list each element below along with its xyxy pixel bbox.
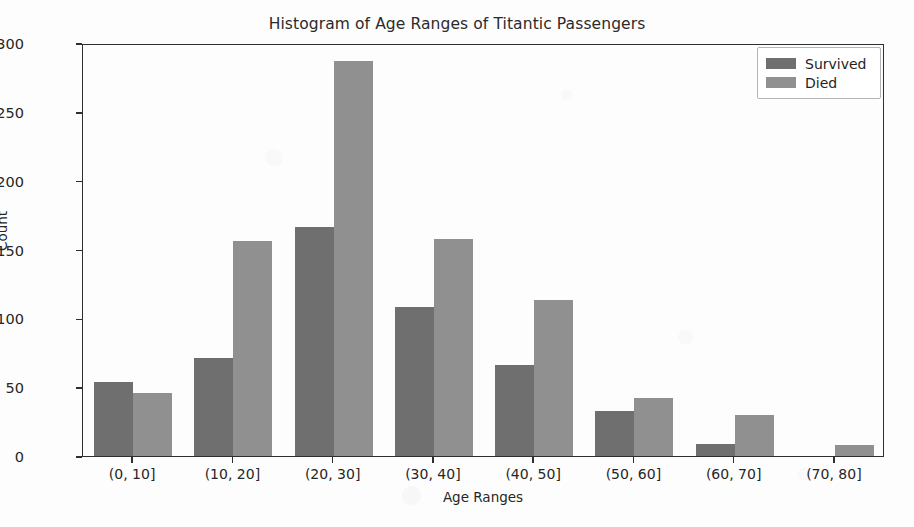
legend-item-died: Died <box>766 73 872 92</box>
y-tick-label-0: 0 <box>0 449 24 465</box>
y-tick-label-300: 300 <box>0 36 24 52</box>
bar-survived-4 <box>495 365 534 456</box>
x-tick-mark-5 <box>633 457 634 463</box>
bar-died-2 <box>334 61 373 456</box>
y-tick-label-50: 50 <box>0 380 24 396</box>
y-tick-mark-100 <box>76 319 82 320</box>
bar-died-5 <box>634 398 673 456</box>
bar-survived-2 <box>295 227 334 456</box>
y-tick-label-100: 100 <box>0 311 24 327</box>
y-tick-mark-150 <box>76 250 82 251</box>
bar-died-0 <box>133 393 172 456</box>
x-tick-mark-2 <box>332 457 333 463</box>
x-tick-mark-6 <box>733 457 734 463</box>
y-tick-mark-300 <box>76 43 82 44</box>
y-tick-label-150: 150 <box>0 243 24 259</box>
bar-survived-0 <box>94 382 133 456</box>
x-tick-mark-3 <box>432 457 433 463</box>
y-tick-mark-50 <box>76 387 82 388</box>
y-tick-label-200: 200 <box>0 174 24 190</box>
bar-survived-5 <box>595 411 634 456</box>
plot-area <box>82 44 884 457</box>
legend-item-survived: Survived <box>766 54 872 73</box>
x-tick-mark-7 <box>833 457 834 463</box>
bars-layer <box>83 45 883 456</box>
x-tick-label-7: (70, 80] <box>774 466 894 482</box>
y-tick-mark-200 <box>76 181 82 182</box>
x-tick-mark-4 <box>532 457 533 463</box>
chart-title: Histogram of Age Ranges of Titantic Pass… <box>0 15 914 33</box>
y-tick-mark-0 <box>76 456 82 457</box>
bar-died-4 <box>534 300 573 456</box>
bar-died-6 <box>735 415 774 456</box>
legend-swatch-survived <box>766 58 796 69</box>
x-tick-mark-0 <box>131 457 132 463</box>
bar-survived-1 <box>194 358 233 456</box>
bar-died-3 <box>434 239 473 457</box>
bar-survived-3 <box>395 307 434 456</box>
x-axis-label: Age Ranges <box>82 489 884 505</box>
bar-died-7 <box>835 445 874 456</box>
legend-label-died: Died <box>805 75 837 91</box>
legend-swatch-died <box>766 77 796 88</box>
legend: Survived Died <box>757 47 881 99</box>
y-tick-mark-250 <box>76 112 82 113</box>
bar-died-1 <box>233 241 272 456</box>
bar-survived-6 <box>696 444 735 456</box>
legend-label-survived: Survived <box>805 56 866 72</box>
x-tick-mark-1 <box>232 457 233 463</box>
y-tick-label-250: 250 <box>0 105 24 121</box>
chart-page: Histogram of Age Ranges of Titantic Pass… <box>0 0 914 527</box>
